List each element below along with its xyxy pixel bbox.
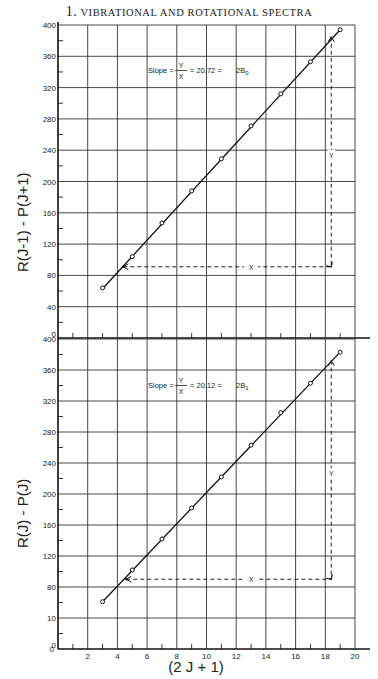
fraction-denominator: X [179,73,184,80]
y-tick-label: 320 [43,84,57,93]
slope-label: Slope = [148,66,174,75]
x-tick-label: 8 [175,652,180,661]
upper-y-axis-title: R(J-1) - P(J+1) [14,172,31,272]
fraction-numerator: Y [179,62,184,69]
y-tick-label: 200 [43,490,57,499]
data-point [308,60,312,64]
data-point [101,600,105,604]
y-tick-label: 120 [43,552,57,561]
y-tick-label: 240 [43,146,57,155]
y-tick-label: 80 [47,271,56,280]
fraction-denominator: X [179,388,184,395]
slope-value: = 20.12 = [190,381,222,390]
rotational-constant: 2B1 [236,381,249,391]
y-distance-label: Y [329,152,334,159]
reference-point [122,265,125,268]
y-tick-label: 360 [43,366,57,375]
data-point [219,157,223,161]
x-tick-label: 12 [232,652,241,661]
x-tick-label: 18 [321,652,330,661]
x-tick-label: 4 [115,652,120,661]
data-point [101,286,105,290]
lower-y-axis-title: R(J) - P(J) [14,479,31,548]
x-origin-label: 0 [50,645,55,654]
data-point [160,221,164,225]
data-point [130,568,134,572]
data-point [130,255,134,259]
x-distance-label: X [249,264,254,271]
y-tick-label: 240 [43,459,57,468]
arrow-icon [326,574,332,579]
upper-chart: 04080120160200240280320360400XYSlope =YX… [43,21,370,339]
rotational-constant: 2B0 [236,66,249,76]
x-tick-label: 10 [202,652,211,661]
data-point [308,381,312,385]
data-point [160,537,164,541]
y-distance-label: Y [329,470,334,477]
x-tick-label: 16 [291,652,300,661]
data-point [190,189,194,193]
y-tick-label: 40 [47,303,56,312]
x-tick-label: 2 [85,652,90,661]
y-tick-label: 280 [43,428,57,437]
slope-annotation: Slope =YX= 20.12 =2B1 [148,377,249,395]
y-tick-label: 120 [43,240,57,249]
y-tick-label: 280 [43,115,57,124]
y-tick-label: 200 [43,178,57,187]
y-tick-label: 160 [43,209,57,218]
figure: 04080120160200240280320360400XYSlope =YX… [0,0,378,679]
x-tick-label: 20 [351,652,360,661]
y-tick-label: 80 [47,583,56,592]
x-tick-label: 14 [261,652,270,661]
y-tick-label: 160 [43,521,57,530]
lower-chart: 01080120160200240280320360400XYSlope =YX… [43,335,370,650]
y-tick-label: 320 [43,397,57,406]
data-point [249,443,253,447]
reference-point [125,578,128,581]
data-point [279,92,283,96]
slope-annotation: Slope =YX= 20.72 =2B0 [148,62,249,80]
x-tick-label: 6 [145,652,150,661]
y-tick-label: 400 [43,335,57,344]
slope-value: = 20.72 = [190,66,222,75]
data-point [219,475,223,479]
slope-label: Slope = [148,381,174,390]
data-point [249,124,253,128]
fraction-numerator: Y [179,377,184,384]
y-tick-label: 400 [43,21,57,30]
data-point [279,411,283,415]
data-point [190,506,194,510]
data-point [338,350,342,354]
y-tick-label: 360 [43,52,57,61]
y-tick-label: 10 [47,614,56,623]
data-point [338,28,342,32]
x-distance-label: X [249,576,254,583]
